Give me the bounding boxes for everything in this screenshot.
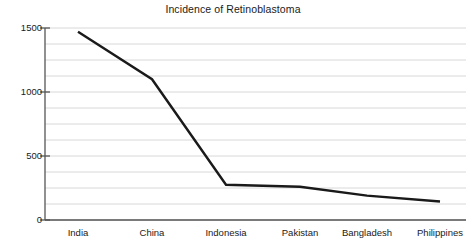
plot-area [0,0,466,250]
x-axis-tick-label-indonesia: Indonesia [205,228,246,238]
x-axis-tick-label-philippines: Philippines [417,228,463,238]
y-axis-tick-label: 1500 [8,23,42,33]
y-axis-tick-label: 500 [8,151,42,161]
x-axis-tick-label-pakistan: Pakistan [282,228,318,238]
series-incidence-line [78,32,440,202]
y-axis-tick-label: 1000 [8,87,42,97]
x-axis-tick-labels: IndiaChinaIndonesiaPakistanBangladeshPhi… [45,228,466,246]
y-axis-tick-labels: 050010001500 [0,0,42,250]
x-axis-tick-label-bangladesh: Bangladesh [342,228,392,238]
y-axis-tick-label: 0 [8,215,42,225]
x-axis-tick-label-india: India [68,228,89,238]
gridlines [45,28,466,220]
data-series-line [78,32,440,202]
chart-container: Incidence of Retinoblastoma 050010001500… [0,0,466,250]
x-axis-tick-label-china: China [140,228,165,238]
